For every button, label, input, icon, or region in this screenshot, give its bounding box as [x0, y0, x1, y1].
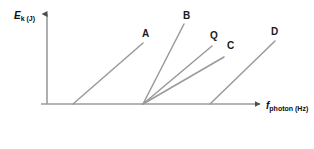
line-a	[73, 43, 143, 104]
photoelectric-effect-figure: Ek (J) fphoton (Hz) A B Q C D	[0, 0, 314, 149]
plot-canvas	[0, 0, 314, 149]
curve-label-b: B	[183, 11, 190, 21]
curve-label-c: C	[227, 41, 234, 51]
curve-label-a: A	[142, 29, 149, 39]
curve-label-q: Q	[210, 31, 218, 41]
x-axis-title: fphoton (Hz)	[266, 101, 308, 111]
x-axis-subscript: photon (Hz)	[269, 105, 308, 112]
curve-label-d: D	[271, 27, 278, 37]
line-d	[210, 41, 275, 104]
line-q	[143, 46, 212, 104]
y-axis-title: Ek (J)	[14, 11, 35, 21]
y-axis-subscript: k (J)	[21, 15, 35, 22]
y-axis-symbol: E	[14, 10, 21, 21]
